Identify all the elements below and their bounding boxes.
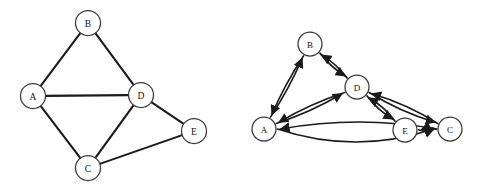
node-E[interactable]: E [182, 119, 207, 144]
node-label-E: E [191, 127, 197, 137]
undirected-edge-group [41, 33, 184, 164]
node-label-C: C [447, 125, 453, 135]
node-A[interactable]: A [21, 84, 46, 109]
directed-edge-B-to-A [272, 56, 304, 115]
node-label-C: C [85, 164, 91, 174]
edge-C-D [95, 105, 133, 158]
node-B[interactable]: B [76, 11, 101, 36]
edge-C-E [100, 135, 182, 164]
edge-D-E [151, 102, 183, 124]
directed-edge-D-to-B [322, 55, 347, 78]
directed-node-group: ABCDE [252, 32, 462, 142]
node-E[interactable]: E [393, 118, 417, 142]
node-label-A: A [30, 92, 37, 102]
node-D[interactable]: D [129, 83, 154, 108]
graph-svg-layer: ABCDE ABCDE [0, 0, 482, 190]
node-C[interactable]: C [76, 156, 101, 181]
node-label-D: D [354, 83, 361, 93]
node-A[interactable]: A [252, 117, 276, 141]
figure-canvas: ABCDE ABCDE [0, 0, 482, 190]
edge-A-D [45, 95, 128, 96]
edge-A-C [41, 106, 81, 158]
node-label-D: D [138, 91, 145, 101]
node-B[interactable]: B [298, 32, 322, 56]
edge-A-B [41, 33, 81, 86]
node-label-B: B [307, 40, 313, 50]
node-label-A: A [261, 125, 268, 135]
node-label-B: B [85, 19, 91, 29]
node-D[interactable]: D [345, 75, 369, 99]
edge-B-D [95, 33, 133, 85]
node-C[interactable]: C [438, 117, 462, 141]
node-label-E: E [402, 126, 408, 136]
